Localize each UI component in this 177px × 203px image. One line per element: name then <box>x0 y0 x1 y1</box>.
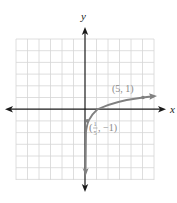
y-axis-label: y <box>80 10 86 22</box>
svg-text:5: 5 <box>94 129 97 136</box>
annotation-fifth-neg1: ( 1 5 , −1) <box>89 120 117 136</box>
svg-text:, −1): , −1) <box>98 122 117 134</box>
x-axis-label: x <box>169 103 175 115</box>
graph: x y (5, 1) ( 1 5 , −1) <box>0 0 177 203</box>
svg-text:(: ( <box>89 121 93 134</box>
point-5-1 <box>141 96 145 100</box>
svg-text:1: 1 <box>94 120 97 127</box>
annotation-5-1: (5, 1) <box>112 83 134 95</box>
